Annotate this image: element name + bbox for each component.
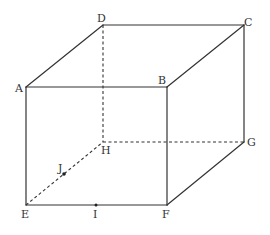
- label-D: D: [97, 12, 106, 25]
- label-C: C: [244, 16, 252, 29]
- edge-DA: [26, 25, 103, 87]
- cube-svg: A B C D E F G H I J: [0, 0, 270, 235]
- cube-diagram: A B C D E F G H I J: [0, 0, 270, 235]
- label-F: F: [162, 208, 170, 221]
- edge-FG: [167, 142, 244, 205]
- label-G: G: [247, 136, 256, 149]
- label-E: E: [21, 208, 29, 221]
- label-H: H: [101, 144, 111, 157]
- label-A: A: [14, 82, 24, 95]
- label-B: B: [158, 74, 166, 87]
- point-I-marker: [95, 204, 98, 207]
- label-I: I: [93, 208, 97, 221]
- label-J: J: [57, 162, 62, 175]
- edge-BC: [167, 25, 244, 87]
- point-J-marker: [62, 172, 66, 176]
